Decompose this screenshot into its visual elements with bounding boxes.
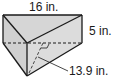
length-label: 16 in. [29,1,58,13]
slant-label: 13.9 in. [69,65,108,77]
height-label: 5 in. [89,25,112,37]
